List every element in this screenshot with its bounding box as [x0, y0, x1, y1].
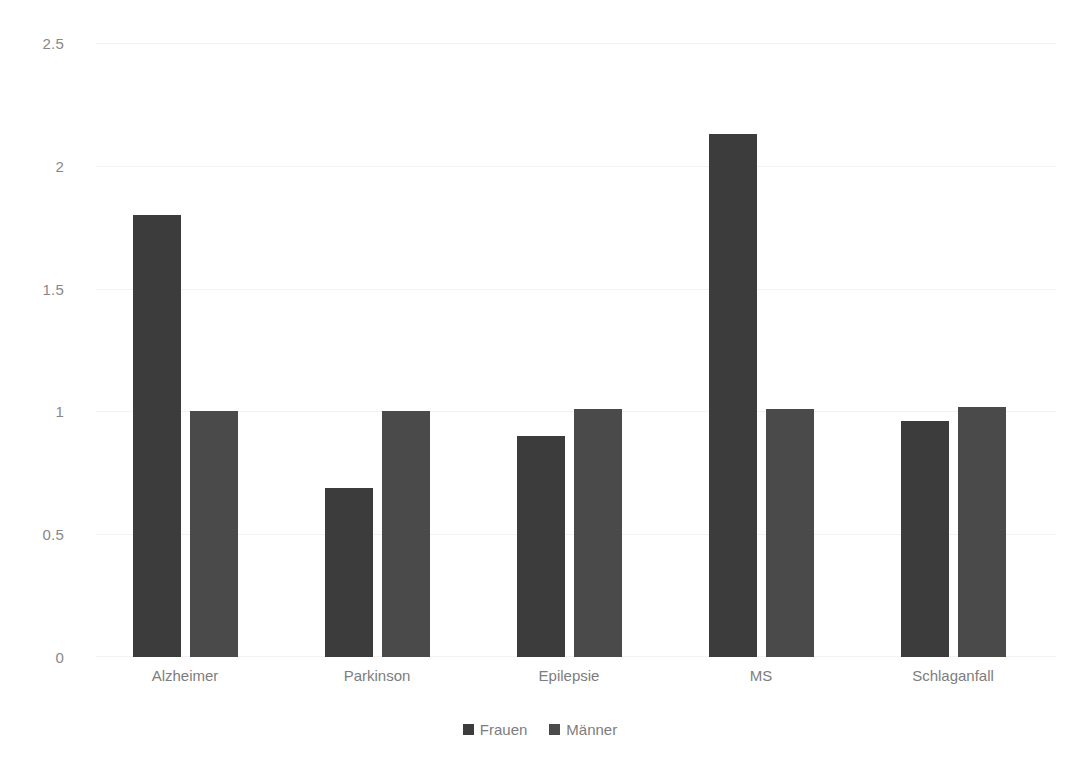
bar-group-parkinson [325, 43, 430, 657]
legend-label-frauen: Frauen [480, 722, 528, 737]
bar-schlaganfall-manner[interactable] [958, 407, 1006, 658]
bar-chart: 2.5 2 1.5 1 0.5 0 Alzheimer Parkinson Ep… [0, 0, 1080, 777]
x-tick-label-ms: MS [750, 668, 773, 683]
bar-group-alzheimer [133, 43, 238, 657]
bar-group-ms [709, 43, 814, 657]
x-tick-label-schlaganfall: Schlaganfall [912, 668, 994, 683]
bar-group-epilepsie [517, 43, 622, 657]
legend-label-manner: Männer [566, 722, 617, 737]
y-tick-label-0: 0 [0, 650, 64, 665]
bar-schlaganfall-frauen[interactable] [901, 421, 949, 657]
bar-parkinson-frauen[interactable] [325, 488, 373, 657]
x-tick-label-alzheimer: Alzheimer [152, 668, 219, 683]
bar-ms-frauen[interactable] [709, 134, 757, 657]
y-tick-label-2: 2 [0, 159, 64, 174]
chart-legend: Frauen Männer [0, 722, 1080, 737]
y-tick-label-2.5: 2.5 [0, 36, 64, 51]
x-tick-label-parkinson: Parkinson [344, 668, 411, 683]
y-tick-label-1: 1 [0, 404, 64, 419]
x-tick-label-epilepsie: Epilepsie [539, 668, 600, 683]
bar-group-schlaganfall [901, 43, 1006, 657]
bar-parkinson-manner[interactable] [382, 411, 430, 657]
bar-epilepsie-frauen[interactable] [517, 436, 565, 657]
y-tick-label-0.5: 0.5 [0, 527, 64, 542]
legend-swatch-manner-icon [549, 724, 560, 735]
bar-ms-manner[interactable] [766, 409, 814, 657]
legend-swatch-frauen-icon [463, 724, 474, 735]
y-tick-label-1.5: 1.5 [0, 282, 64, 297]
legend-item-manner[interactable]: Männer [549, 722, 617, 737]
bar-epilepsie-manner[interactable] [574, 409, 622, 657]
bar-alzheimer-frauen[interactable] [133, 215, 181, 657]
plot-area [96, 43, 1056, 657]
bar-alzheimer-manner[interactable] [190, 411, 238, 657]
legend-item-frauen[interactable]: Frauen [463, 722, 528, 737]
